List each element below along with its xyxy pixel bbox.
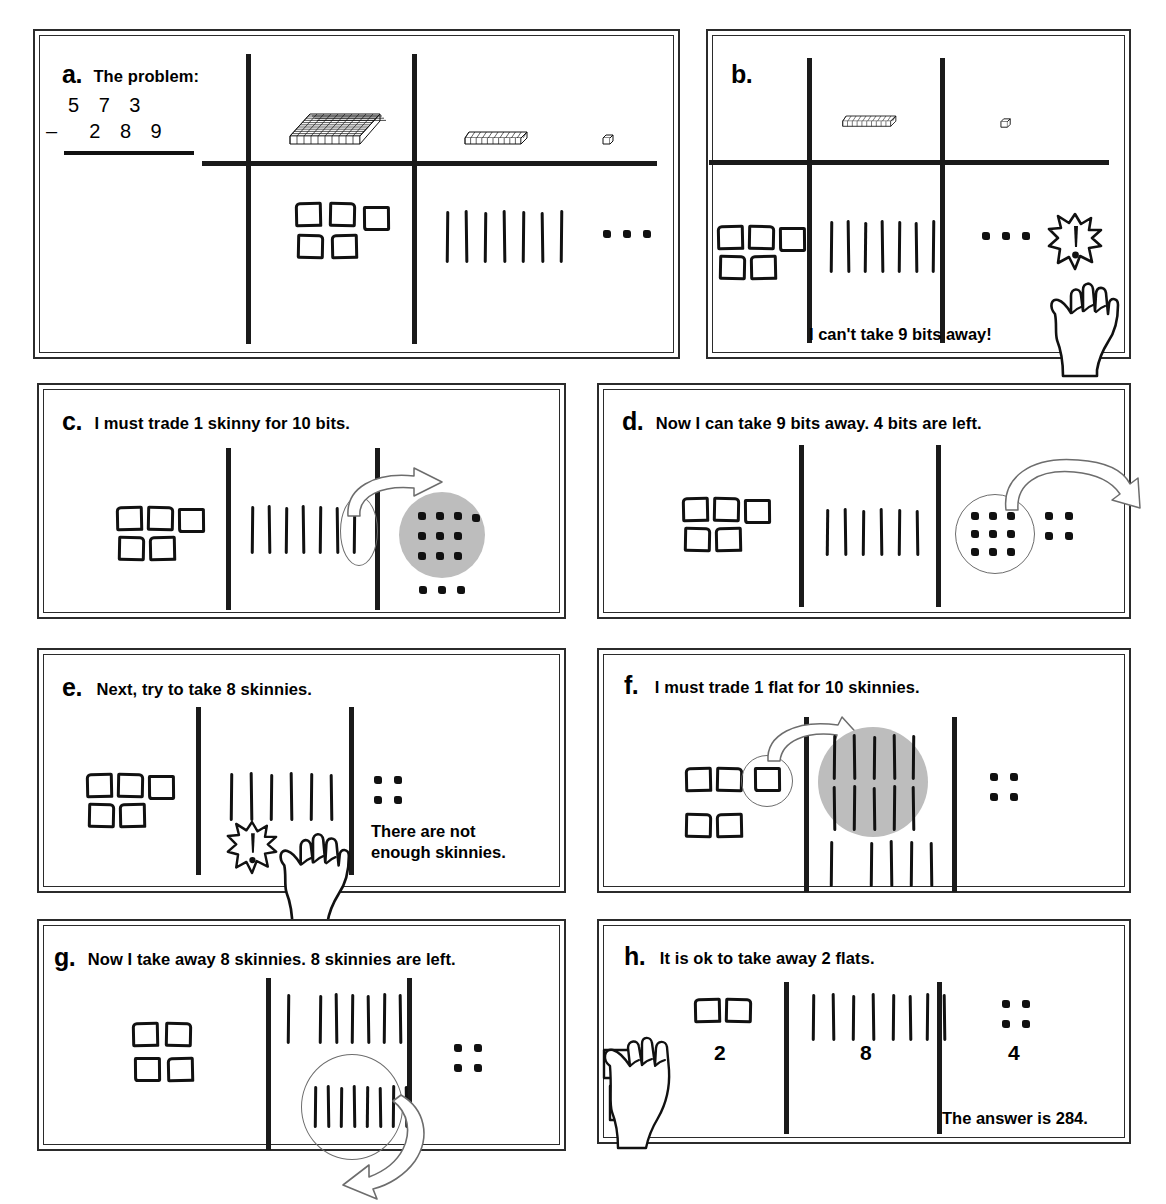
panel-d: d. Now I can take 9 bits away. 4 bits ar… (597, 383, 1131, 619)
panel-b: b. (706, 29, 1131, 359)
remove-arrow-icon (1000, 448, 1150, 522)
panel-h: h. It is ok to take away 2 flats. 2 (597, 919, 1131, 1144)
skinny-icon (841, 114, 901, 134)
panel-f-letter: f. (624, 671, 638, 699)
column-divider-hundreds-tens (266, 978, 271, 1150)
digit-ones: 4 (1008, 1041, 1020, 1065)
pointing-hand-icon (596, 1034, 682, 1153)
column-divider-hundreds-tens (807, 58, 812, 343)
panel-g: g. Now I take away 8 skinnies. 8 skinnie… (37, 919, 566, 1151)
panel-g-letter: g. (54, 943, 75, 971)
panel-f-caption: I must trade 1 flat for 10 skinnies. (655, 678, 920, 696)
column-divider-hundreds-tens (799, 445, 804, 607)
column-divider-hundreds-tens (226, 448, 231, 610)
panel-g-label: g. Now I take away 8 skinnies. 8 skinnie… (54, 943, 456, 972)
bit-icon (602, 133, 616, 151)
panel-d-label: d. Now I can take 9 bits away. 4 bits ar… (622, 407, 982, 436)
panel-c-letter: c. (62, 407, 82, 435)
column-divider-tens-ones (936, 445, 941, 607)
column-divider-tens-ones (412, 54, 417, 344)
panel-a-label: a. The problem: (62, 60, 199, 89)
header-divider (202, 161, 657, 166)
sum-rule (64, 151, 194, 155)
panel-e-callout: There are not enough skinnies. (371, 821, 506, 862)
panel-e-label: e. Next, try to take 8 skinnies. (62, 673, 312, 702)
panel-d-caption: Now I can take 9 bits away. 4 bits are l… (656, 414, 982, 432)
pointing-hand-icon (274, 815, 354, 934)
panel-e-letter: e. (62, 673, 82, 701)
panel-h-answer-callout: The answer is 284. (942, 1108, 1088, 1129)
sum-subtrahend: – 2 8 9 (46, 118, 169, 144)
flat-icon (288, 112, 382, 152)
pointing-hand-icon (1045, 266, 1123, 380)
problem-sum: 5 7 3 – 2 8 9 (68, 92, 169, 144)
panel-b-callout: I can't take 9 bits away! (809, 324, 992, 345)
panel-c-caption: I must trade 1 skinny for 10 bits. (94, 414, 350, 432)
skinny-icon (463, 130, 533, 152)
exclamation-burst-icon (226, 820, 278, 880)
column-divider-hundreds-tens (784, 982, 789, 1134)
panel-b-letter: b. (731, 60, 752, 88)
column-divider-tens-ones (952, 717, 957, 892)
digit-tens: 8 (860, 1041, 872, 1065)
sum-minuend: 5 7 3 (68, 92, 169, 118)
panel-f-label: f. I must trade 1 flat for 10 skinnies. (624, 671, 920, 700)
panel-e: e. Next, try to take 8 skinnies. (37, 648, 566, 893)
panel-c: c. I must trade 1 skinny for 10 bits. (37, 383, 566, 619)
panel-g-caption: Now I take away 8 skinnies. 8 skinnies a… (88, 950, 456, 968)
panel-h-caption: It is ok to take away 2 flats. (660, 949, 875, 967)
panel-b-label: b. (731, 60, 759, 89)
panel-a-caption: The problem: (93, 67, 199, 85)
panel-c-label: c. I must trade 1 skinny for 10 bits. (62, 407, 350, 436)
panel-e-caption: Next, try to take 8 skinnies. (96, 680, 312, 698)
remove-arrow-icon (339, 1091, 459, 1204)
column-divider-hundreds-tens (246, 54, 251, 344)
panel-h-letter: h. (624, 942, 645, 970)
panel-a: a. The problem: 5 7 3 – 2 8 9 (33, 29, 680, 359)
header-divider (709, 160, 1109, 165)
digit-hundreds: 2 (714, 1041, 726, 1065)
bit-icon (1000, 116, 1013, 134)
panel-f: f. I must trade 1 flat for 10 skinnies. (597, 648, 1131, 893)
panel-a-letter: a. (62, 60, 82, 88)
column-divider-hundreds-tens (196, 707, 201, 875)
column-divider-tens-ones (940, 58, 945, 343)
panel-d-letter: d. (622, 407, 643, 435)
panel-h-label: h. It is ok to take away 2 flats. (624, 942, 875, 971)
